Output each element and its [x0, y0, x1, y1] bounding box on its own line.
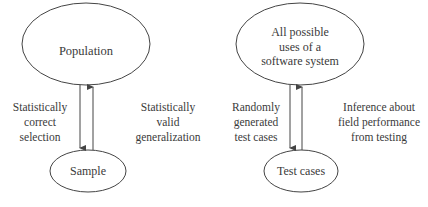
generalization-label: Statistically valid generalization [124, 100, 212, 145]
random-generation-label: Randomly generated test cases [226, 100, 286, 145]
label-line: generated [226, 115, 286, 130]
label-line: uses of a [250, 40, 350, 55]
label-line: Randomly [226, 100, 286, 115]
population-label: Population [40, 44, 132, 59]
label-line: Statistically [8, 100, 72, 115]
label-line: correct [8, 115, 72, 130]
label-line: valid [124, 115, 212, 130]
inference-label: Inference about field performance from t… [330, 100, 428, 145]
label-line: generalization [124, 130, 212, 145]
all-uses-label: All possible uses of a software system [250, 25, 350, 69]
label-line: from testing [330, 130, 428, 145]
label-line: software system [250, 54, 350, 69]
label-line: All possible [250, 25, 350, 40]
label-line: Inference about [330, 100, 428, 115]
selection-label: Statistically correct selection [8, 100, 72, 145]
label-line: field performance [330, 115, 428, 130]
label-line: selection [8, 130, 72, 145]
sample-label: Sample [60, 164, 116, 179]
test-cases-label: Test cases [270, 164, 332, 179]
label-line: test cases [226, 130, 286, 145]
label-line: Statistically [124, 100, 212, 115]
